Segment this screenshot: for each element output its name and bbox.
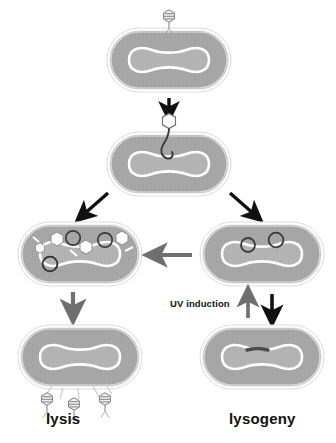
stage-lytic-replication-assembly [18, 222, 142, 286]
uv-induction-label: UV induction [170, 298, 230, 309]
prophage-segment [247, 349, 268, 350]
stage-phage-adsorption-and-infection [107, 10, 231, 92]
empty-capsid-icon [163, 114, 176, 129]
diagram-svg [0, 0, 336, 443]
assembled-capsid [116, 231, 128, 245]
figure-canvas: UV induction lysis lysogeny [0, 0, 336, 443]
stage-circularized-phage-dna [200, 222, 324, 286]
stage-dna-injection [107, 114, 231, 197]
assembled-capsid [36, 243, 45, 253]
assembled-capsid [51, 232, 63, 246]
arrow-branch-to-lytic [83, 193, 108, 215]
assembled-capsid [80, 240, 92, 254]
lysis-label: lysis [46, 410, 80, 427]
released-phage [100, 393, 111, 418]
stage-cell-lysis-releasing-phages [18, 325, 142, 423]
arrow-branch-to-lysogenic [230, 193, 255, 215]
lysogeny-label: lysogeny [229, 410, 296, 427]
stage-lysogenic-cell-with-prophage [200, 325, 324, 389]
